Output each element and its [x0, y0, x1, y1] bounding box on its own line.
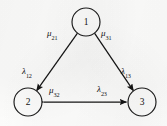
diagram-canvas: 1 2 3	[0, 0, 167, 126]
lambda-12-subscript: 12	[26, 72, 32, 79]
edge-label-lambda-23: λ23	[97, 85, 107, 94]
edge-label-mu-21: μ21	[47, 29, 57, 38]
mu-21-symbol: μ	[47, 28, 52, 38]
edge-label-lambda-13: λ13	[121, 67, 131, 76]
lambda-13-subscript: 13	[125, 72, 131, 79]
lambda-23-subscript: 23	[101, 90, 107, 97]
mu-31-symbol: μ	[101, 28, 106, 38]
edge-node1-node2	[37, 33, 78, 91]
edge-label-mu-31: μ31	[101, 29, 111, 38]
edge-node1-node3	[95, 33, 134, 91]
node-3-label: 3	[140, 97, 145, 107]
mu-31-subscript: 31	[106, 34, 112, 41]
node-1-label: 1	[84, 17, 89, 27]
edge-label-lambda-12: λ12	[22, 67, 32, 76]
mu-21-subscript: 21	[52, 34, 58, 41]
mu-32-subscript: 32	[54, 91, 60, 98]
edge-label-mu-32: μ32	[49, 86, 59, 95]
state-transition-diagram: 1 2 3 μ21 μ31 λ12 λ13 μ32 λ23	[0, 0, 167, 126]
node-2-label: 2	[26, 97, 31, 107]
mu-32-symbol: μ	[49, 85, 54, 95]
